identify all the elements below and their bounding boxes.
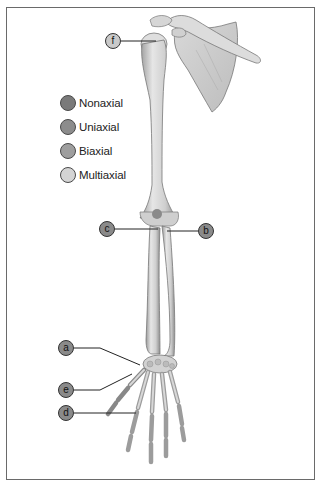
legend-item-biaxial: Biaxial [60,139,126,163]
forearm-bones [146,226,175,356]
legend-label: Biaxial [79,145,112,157]
legend-swatch-icon [60,119,76,135]
callout-b: b [198,223,214,239]
callout-f: f [105,33,121,49]
callout-d: d [58,405,74,421]
arm-skeleton-illustration [0,0,322,485]
legend-item-multiaxial: Multiaxial [60,163,126,187]
humerus [140,33,179,226]
legend-swatch-icon [60,143,76,159]
legend-swatch-icon [60,95,76,111]
callout-e: e [58,382,74,398]
legend-label: Nonaxial [79,97,123,109]
legend-swatch-icon [60,167,76,183]
callout-a: a [58,340,74,356]
joint-type-legend: Nonaxial Uniaxial Biaxial Multiaxial [60,91,126,187]
legend-item-uniaxial: Uniaxial [60,115,126,139]
legend-item-nonaxial: Nonaxial [60,91,126,115]
callout-c: c [99,221,115,237]
legend-label: Multiaxial [79,169,126,181]
finger-bones [128,372,184,462]
legend-label: Uniaxial [79,121,119,133]
